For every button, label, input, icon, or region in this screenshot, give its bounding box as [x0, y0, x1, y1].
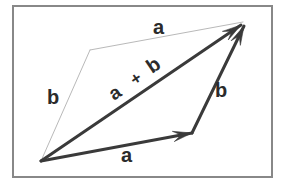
- label-b-left: b: [47, 86, 59, 108]
- label-b-right: b: [215, 79, 227, 101]
- vector-diagram-figure: aba+bba: [0, 0, 283, 190]
- label-a-bottom: a: [121, 144, 133, 166]
- vector-diagram-canvas: aba+bba: [0, 0, 283, 190]
- label-a-top: a: [153, 16, 165, 38]
